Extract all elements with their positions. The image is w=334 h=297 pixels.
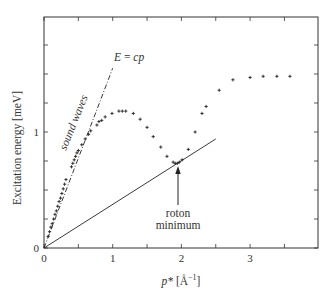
roton-label: roton [166,207,191,219]
y-tick-label-1: 1 [34,126,40,138]
x-axis-unit-close: ] [197,275,201,287]
x-axis-title: p* [Å−1] [161,273,201,288]
x-tick-label-2: 2 [179,252,185,264]
x-axis-unit-exp: −1 [188,273,197,282]
x-tick-label-0: 0 [41,252,47,264]
roton-arrow-icon [175,166,180,205]
minimum-label: minimum [156,219,201,231]
x-axis-unit: [Å [173,274,189,287]
x-tick-label-1: 1 [110,252,116,264]
x-tick-label-3: 3 [247,252,253,264]
dispersion-chart: 0 1 2 3 0 1 Excitation energy [meV] p* [… [0,0,334,297]
y-axis-title: Excitation energy [meV] [11,91,24,205]
x-axis-var: p* [161,275,174,288]
ecp-label: E = cp [113,51,144,64]
y-tick-label-0: 0 [34,242,40,254]
sound-waves-label: sound waves [57,93,90,152]
